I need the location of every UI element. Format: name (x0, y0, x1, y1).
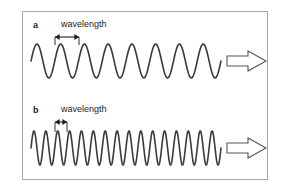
panel-a-direction-arrow (226, 50, 268, 72)
figure-border-box: a wavelength b wavelength (22, 11, 268, 180)
direction-arrow-shape (227, 51, 266, 71)
panel-a: a wavelength (23, 12, 267, 96)
direction-arrow-shape (227, 138, 266, 158)
wave-path (31, 44, 221, 78)
panel-b: b wavelength (23, 97, 267, 181)
wavelength-figure: a wavelength b wavelength (0, 0, 281, 189)
panel-b-direction-arrow (226, 137, 268, 159)
wave-path (31, 131, 221, 165)
